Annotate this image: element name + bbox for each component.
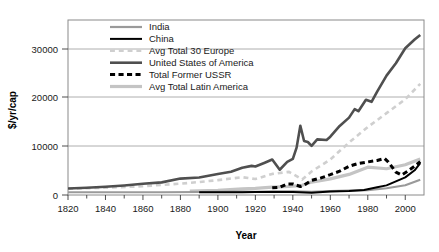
x-tick-label-1860: 1860 <box>132 203 153 214</box>
y-tick-label-20000: 20000 <box>32 92 58 103</box>
x-tick-label-1820: 1820 <box>57 203 78 214</box>
x-tick-label-1940: 1940 <box>282 203 303 214</box>
y-tick-label-10000: 10000 <box>32 141 58 152</box>
x-tick-label-1980: 1980 <box>357 203 378 214</box>
legend-label-united-states-of-america: United States of America <box>149 57 254 68</box>
legend-label-china: China <box>149 33 175 44</box>
line-chart: 30000 20000 10000 0 $/yr/cap 18201840186… <box>0 0 439 252</box>
y-tick-labels: 30000 20000 10000 0 <box>32 44 58 201</box>
x-tick-label-1920: 1920 <box>245 203 266 214</box>
legend-label-avg-total-30-europe: Avg Total 30 Europe <box>149 45 234 56</box>
x-tick-label-1840: 1840 <box>95 203 116 214</box>
legend-label-india: India <box>149 21 170 32</box>
legend-label-avg-total-latin-america: Avg Total Latin America <box>149 81 249 92</box>
x-tick-label-1960: 1960 <box>320 203 341 214</box>
x-tick-label-1880: 1880 <box>170 203 191 214</box>
y-axis-title: $/yr/cap <box>7 91 18 129</box>
x-tick-label-1900: 1900 <box>207 203 228 214</box>
legend-label-total-former-ussr: Total Former USSR <box>149 69 231 80</box>
y-tick-label-30000: 30000 <box>32 44 58 55</box>
x-tick-labels: 1820184018601880190019201940196019802000 <box>57 203 415 214</box>
y-tick-label-0: 0 <box>53 190 58 201</box>
chart-figure: 30000 20000 10000 0 $/yr/cap 18201840186… <box>0 0 439 252</box>
series-line-total-former-ussr <box>272 158 420 187</box>
x-tick-label-2000: 2000 <box>395 203 416 214</box>
x-minor-tick-marks <box>87 195 387 199</box>
chart-legend: IndiaChinaAvg Total 30 EuropeUnited Stat… <box>110 21 254 92</box>
x-axis-title: Year <box>235 230 256 241</box>
y-tick-marks <box>62 49 68 195</box>
